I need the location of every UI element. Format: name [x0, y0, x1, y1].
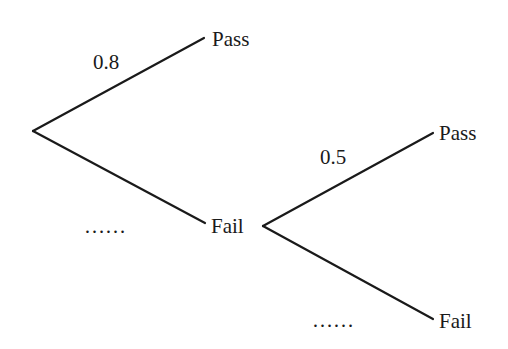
node-first-fail: Fail: [211, 214, 244, 238]
node-first-pass: Pass: [212, 27, 249, 51]
node-second-fail: Fail: [439, 309, 472, 333]
edge-label-fail-fail: ……: [312, 308, 354, 332]
node-second-pass: Pass: [439, 121, 476, 145]
edge-root-fail: [33, 131, 205, 223]
edge-label-root-pass: 0.8: [93, 50, 119, 74]
edge-fail-fail: [263, 226, 433, 319]
edge-fail-pass: [263, 133, 433, 226]
edge-label-fail-pass: 0.5: [320, 145, 346, 169]
edge-label-root-fail: ……: [84, 214, 126, 238]
tree-diagram: Pass Fail Pass Fail 0.8 …… 0.5 ……: [0, 0, 508, 349]
